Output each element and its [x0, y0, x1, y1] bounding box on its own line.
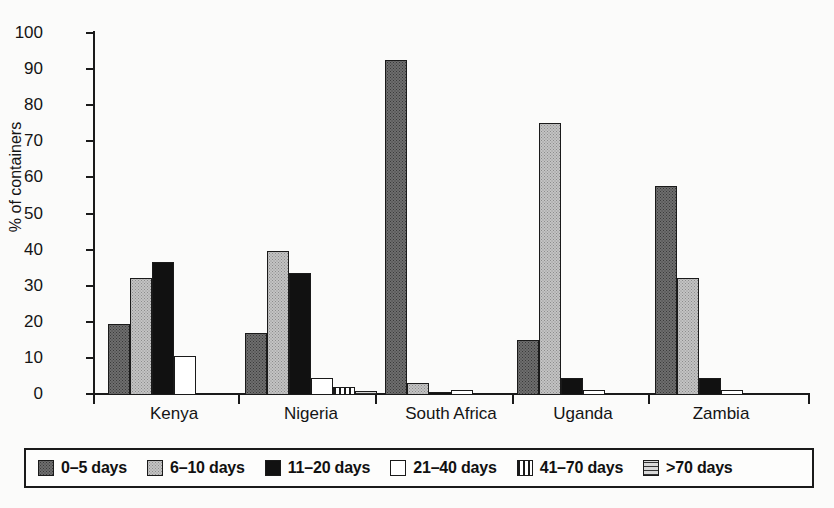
bar: [311, 378, 333, 394]
x-tick-mark: [375, 395, 377, 404]
y-tick-label: 30: [0, 277, 43, 294]
x-tick-mark: [808, 395, 810, 404]
legend-item[interactable]: 0–5 days: [38, 459, 127, 477]
bar: [355, 391, 377, 394]
bar: [677, 278, 699, 394]
bar: [289, 273, 311, 394]
legend-label: 11–20 days: [288, 459, 371, 477]
y-tick-label: 60: [0, 168, 43, 185]
bar: [385, 60, 407, 394]
legend-item[interactable]: 41–70 days: [517, 459, 623, 477]
x-tick-mark: [512, 395, 514, 404]
legend-swatch-icon: [147, 460, 163, 476]
bar: [407, 383, 429, 394]
bar-group-bars: [245, 33, 377, 394]
legend-item[interactable]: 21–40 days: [390, 459, 496, 477]
bar: [699, 378, 721, 394]
bar: [429, 392, 451, 394]
y-tick-label: 20: [0, 313, 43, 330]
bar: [583, 390, 605, 394]
y-tick-label: 70: [0, 132, 43, 149]
y-tick-label: 50: [0, 205, 43, 222]
bar-group-bars: [517, 33, 649, 394]
y-axis-ticks: 1009080706050403020100: [0, 0, 95, 508]
bar: [130, 278, 152, 394]
bar: [451, 390, 473, 394]
bar-group-bars: [108, 33, 240, 394]
x-axis-group-label: Zambia: [615, 404, 827, 424]
bar: [152, 262, 174, 394]
bar: [539, 123, 561, 394]
y-tick-label: 80: [0, 96, 43, 113]
legend-swatch-icon: [643, 460, 659, 476]
bar: [174, 356, 196, 394]
bar: [333, 387, 355, 394]
chart-legend: 0–5 days6–10 days11–20 days21–40 days41–…: [24, 448, 814, 488]
legend-item[interactable]: 11–20 days: [265, 459, 371, 477]
legend-swatch-icon: [265, 460, 281, 476]
x-tick-mark: [238, 395, 240, 404]
y-tick-label: 40: [0, 241, 43, 258]
legend-item[interactable]: 6–10 days: [147, 459, 245, 477]
bar: [655, 186, 677, 394]
y-tick-label: 90: [0, 60, 43, 77]
legend-label: 41–70 days: [540, 459, 623, 477]
legend-label: 6–10 days: [170, 459, 245, 477]
bar: [561, 378, 583, 394]
bar-group-bars: [385, 33, 517, 394]
bar: [267, 251, 289, 394]
bar: [721, 390, 743, 394]
bar: [517, 340, 539, 394]
bar: [218, 393, 240, 394]
legend-label: >70 days: [666, 459, 732, 477]
legend-swatch-icon: [517, 460, 533, 476]
bar-group-bars: [655, 33, 787, 394]
legend-label: 0–5 days: [61, 459, 127, 477]
legend-label: 21–40 days: [413, 459, 496, 477]
y-tick-label: 100: [0, 24, 43, 41]
y-tick-label: 0: [0, 385, 43, 402]
chart-page: % of containers 1009080706050403020100 K…: [0, 0, 834, 508]
y-tick-label: 10: [0, 349, 43, 366]
bar: [245, 333, 267, 394]
legend-item[interactable]: >70 days: [643, 459, 732, 477]
legend-swatch-icon: [38, 460, 54, 476]
x-tick-mark: [93, 395, 95, 404]
bar: [108, 324, 130, 394]
x-tick-mark: [648, 395, 650, 404]
plot-area: [95, 33, 808, 394]
legend-swatch-icon: [390, 460, 406, 476]
